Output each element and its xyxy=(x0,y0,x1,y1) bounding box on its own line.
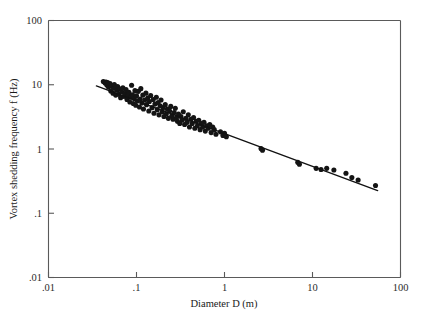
data-point xyxy=(168,104,173,109)
data-point xyxy=(141,106,146,111)
data-point xyxy=(154,95,159,100)
y-tick-label: 10 xyxy=(32,79,43,90)
x-tick-label: .1 xyxy=(133,282,141,293)
data-point xyxy=(138,86,143,91)
data-point xyxy=(324,166,329,171)
data-point xyxy=(186,112,191,117)
data-point xyxy=(331,168,336,173)
data-point xyxy=(129,83,134,88)
x-tick-label: 1 xyxy=(222,282,227,293)
data-point xyxy=(349,175,354,180)
vortex-shedding-chart: .01.1110100 .01.1110100 Diameter D (m) V… xyxy=(0,0,421,322)
data-point xyxy=(213,132,218,137)
data-point xyxy=(143,91,148,96)
y-tick-label: .1 xyxy=(34,208,42,219)
chart-background xyxy=(0,0,421,322)
data-point xyxy=(356,177,361,182)
data-point xyxy=(158,97,163,102)
y-tick-label: 1 xyxy=(37,144,42,155)
x-axis-title: Diameter D (m) xyxy=(190,298,258,310)
y-axis-title: Vortex shedding frequency f (Hz) xyxy=(8,78,20,219)
data-point xyxy=(343,171,348,176)
data-point xyxy=(173,106,178,111)
data-point xyxy=(181,109,186,114)
data-point xyxy=(373,183,378,188)
y-tick-label: .01 xyxy=(29,272,42,283)
x-tick-label: .01 xyxy=(42,282,55,293)
x-tick-label: 100 xyxy=(393,282,409,293)
x-tick-label: 10 xyxy=(307,282,318,293)
chart-canvas: .01.1110100 .01.1110100 Diameter D (m) V… xyxy=(0,0,421,322)
y-tick-label: 100 xyxy=(26,15,42,26)
